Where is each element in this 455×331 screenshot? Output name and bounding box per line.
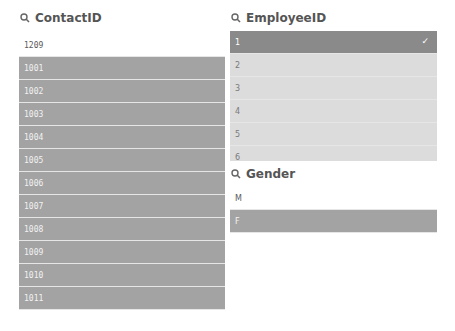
list-item[interactable]: 1209 — [19, 34, 225, 57]
list-item[interactable]: 4 — [230, 100, 437, 123]
list-item[interactable]: 3 — [230, 77, 437, 100]
list-item-value: 2 — [235, 61, 240, 70]
list-item-value: M — [235, 194, 242, 203]
list-item-value: F — [235, 217, 240, 226]
employeeid-filter-pane: EmployeeID — [230, 8, 437, 28]
search-icon[interactable] — [19, 12, 31, 24]
list-item-value: 1005 — [24, 156, 43, 165]
gender-title-label: Gender — [246, 167, 295, 181]
employeeid-list[interactable]: 1✓23456 — [230, 31, 437, 161]
list-item[interactable]: 1011 — [19, 287, 225, 310]
list-item[interactable]: 1003 — [19, 103, 225, 126]
contactid-filter-pane: ContactID — [19, 8, 225, 28]
list-item[interactable]: 1004 — [19, 126, 225, 149]
list-item-value: 4 — [235, 107, 240, 116]
search-icon[interactable] — [230, 12, 242, 24]
list-item-value: 1 — [235, 38, 240, 47]
list-item[interactable]: 1010 — [19, 264, 225, 287]
list-item-value: 1008 — [24, 225, 43, 234]
list-item-value: 3 — [235, 84, 240, 93]
list-item-value: 1006 — [24, 179, 43, 188]
list-item[interactable]: 1007 — [19, 195, 225, 218]
gender-title[interactable]: Gender — [230, 164, 437, 184]
employeeid-title[interactable]: EmployeeID — [230, 8, 437, 28]
list-item-value: 1001 — [24, 64, 43, 73]
list-item-value: 1010 — [24, 271, 43, 280]
contactid-title-label: ContactID — [35, 11, 102, 25]
gender-filter-pane: Gender — [230, 164, 437, 184]
list-item-value: 1009 — [24, 248, 43, 257]
list-item[interactable]: 1006 — [19, 172, 225, 195]
list-item-value: 1002 — [24, 87, 43, 96]
list-item[interactable]: F — [230, 210, 437, 233]
employeeid-title-label: EmployeeID — [246, 11, 326, 25]
contactid-title[interactable]: ContactID — [19, 8, 225, 28]
list-item-value: 1007 — [24, 202, 43, 211]
list-item[interactable]: 1✓ — [230, 31, 437, 54]
list-item[interactable]: 1001 — [19, 57, 225, 80]
contactid-list[interactable]: 1209100110021003100410051006100710081009… — [19, 34, 225, 316]
gender-list[interactable]: MF — [230, 187, 437, 233]
list-item-value: 6 — [235, 153, 240, 162]
list-item[interactable]: 1009 — [19, 241, 225, 264]
list-item-value: 1003 — [24, 110, 43, 119]
list-item-value: 5 — [235, 130, 240, 139]
list-item[interactable]: M — [230, 187, 437, 210]
list-item[interactable]: 2 — [230, 54, 437, 77]
list-item-value: 1011 — [24, 294, 43, 303]
list-item[interactable]: 5 — [230, 123, 437, 146]
list-item[interactable]: 1005 — [19, 149, 225, 172]
search-icon[interactable] — [230, 168, 242, 180]
list-item[interactable]: 1002 — [19, 80, 225, 103]
check-icon: ✓ — [421, 36, 429, 46]
list-item-value: 1004 — [24, 133, 43, 142]
list-item[interactable]: 1008 — [19, 218, 225, 241]
list-item[interactable]: 6 — [230, 146, 437, 161]
list-item-value: 1209 — [24, 41, 43, 50]
